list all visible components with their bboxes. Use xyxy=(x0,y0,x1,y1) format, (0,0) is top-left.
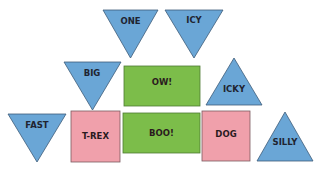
shape-trex-square: T-REX xyxy=(71,111,120,162)
shape-big-triangle: BIG xyxy=(64,62,121,110)
shape-ow-rectangle: OW! xyxy=(124,66,200,106)
shape-one-label: ONE xyxy=(120,16,140,26)
shape-silly-label: SILLY xyxy=(273,137,299,147)
shape-boo-label: BOO! xyxy=(149,128,174,138)
shapes-diagram: ONE ICY BIG OW! ICKY FAST T-REX BOO! DOG xyxy=(0,0,321,170)
shape-big-label: BIG xyxy=(84,68,101,78)
shape-icky-label: ICKY xyxy=(223,84,246,94)
shape-trex-label: T-REX xyxy=(82,131,109,141)
shape-dog-square: DOG xyxy=(202,111,250,161)
shape-dog-label: DOG xyxy=(215,129,236,139)
shape-icky-triangle: ICKY xyxy=(206,58,262,105)
shape-boo-rectangle: BOO! xyxy=(123,113,200,153)
shape-ow-label: OW! xyxy=(152,77,172,87)
shape-icy-triangle: ICY xyxy=(165,10,223,58)
shape-fast-label: FAST xyxy=(25,120,49,130)
shape-silly-triangle: SILLY xyxy=(257,112,313,161)
shape-one-triangle: ONE xyxy=(103,10,158,58)
shape-fast-triangle: FAST xyxy=(8,114,66,162)
shape-icy-label: ICY xyxy=(186,15,202,25)
